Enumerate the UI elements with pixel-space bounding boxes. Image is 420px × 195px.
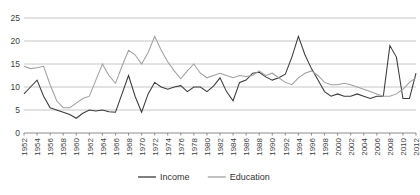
x-axis-tick-label: 1966 — [112, 137, 121, 155]
x-axis-tick-label: 1984 — [229, 137, 238, 155]
x-axis-tick-label: 2002 — [347, 137, 356, 155]
x-axis-tick-label: 1964 — [99, 137, 108, 155]
x-axis-tick-label: 2004 — [360, 137, 369, 155]
y-axis-tick-label: 15 — [11, 59, 21, 69]
x-axis-tick-label: 1972 — [151, 137, 160, 155]
legend-label-income: Income — [160, 172, 190, 182]
x-axis-tick-label: 1960 — [72, 137, 81, 155]
legend-label-education: Education — [230, 172, 270, 182]
x-axis-tick-label: 2006 — [373, 137, 382, 155]
x-axis-tick-label: 1998 — [321, 137, 330, 155]
x-axis-tick-label: 2000 — [334, 137, 343, 155]
y-axis-tick-label: 0 — [15, 128, 20, 138]
x-axis-tick-label: 1996 — [308, 137, 317, 155]
x-axis-tick-label: 1990 — [268, 137, 277, 155]
x-axis-tick-label: 1976 — [177, 137, 186, 155]
x-axis-tick-label: 2012 — [412, 137, 420, 155]
y-axis-tick-label: 5 — [15, 105, 20, 115]
x-axis-tick-label: 2008 — [386, 137, 395, 155]
x-axis-tick-label: 1982 — [216, 137, 225, 155]
y-axis-tick-label: 10 — [11, 82, 21, 92]
x-axis-tick-label: 1986 — [242, 137, 251, 155]
x-axis-tick-label: 1988 — [255, 137, 264, 155]
x-axis-tick-label: 1978 — [190, 137, 199, 155]
x-axis-tick-label: 1958 — [59, 137, 68, 155]
x-axis-tick-label: 1962 — [86, 137, 95, 155]
x-axis-tick-label: 1992 — [282, 137, 291, 155]
chart-legend: IncomeEducation — [138, 172, 270, 182]
x-axis-tick-label: 2010 — [399, 137, 408, 155]
x-axis-tick-label: 1956 — [46, 137, 55, 155]
series-line-income — [24, 36, 416, 118]
series-line-education — [24, 36, 416, 107]
x-axis-tick-label: 1952 — [20, 137, 29, 155]
chart-canvas: 0510152025195219541956195819601962196419… — [0, 0, 420, 195]
x-axis-tick-label: 1954 — [33, 137, 42, 155]
x-axis-tick-label: 1974 — [164, 137, 173, 155]
x-axis-tick-label: 1980 — [203, 137, 212, 155]
x-axis-tick-label: 1968 — [125, 137, 134, 155]
y-axis-tick-label: 20 — [11, 36, 21, 46]
x-axis-tick-label: 1994 — [295, 137, 304, 155]
line-chart: 0510152025195219541956195819601962196419… — [0, 0, 420, 195]
y-axis-tick-label: 25 — [11, 13, 21, 23]
x-axis-tick-label: 1970 — [138, 137, 147, 155]
